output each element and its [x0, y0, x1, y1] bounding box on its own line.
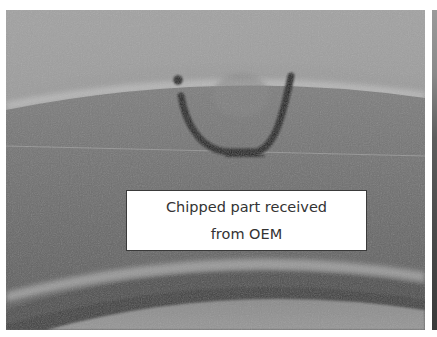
adjacent-photo-edge	[432, 10, 437, 330]
callout-line-2: from OEM	[211, 221, 282, 248]
figure-canvas: Chipped part received from OEM	[0, 0, 437, 337]
callout-line-1: Chipped part received	[166, 194, 327, 221]
part-photo: Chipped part received from OEM	[6, 10, 425, 330]
callout-label: Chipped part received from OEM	[126, 190, 367, 251]
ring-photo-graphic	[6, 10, 425, 330]
